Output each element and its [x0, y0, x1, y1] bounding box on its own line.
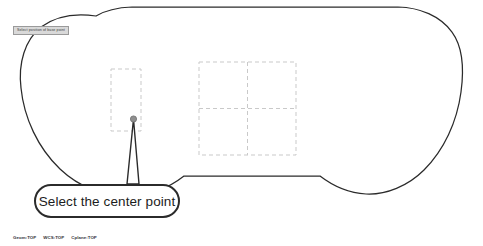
base-point-prompt-label: Select position of base point: [13, 26, 69, 35]
status-item-wcs[interactable]: WCS:TOP: [43, 235, 64, 240]
status-bar: Geom:TOP WCS:TOP Cplane:TOP: [0, 232, 483, 242]
callout-leader-pointer: [127, 119, 139, 184]
construction-grid-right: [199, 62, 296, 155]
status-item-cplane[interactable]: Cplane:TOP: [71, 235, 97, 240]
selection-point-marker[interactable]: [130, 116, 136, 122]
status-item-geometry-plane[interactable]: Geom:TOP: [13, 235, 36, 240]
rounded-slot-profile-outline[interactable]: [20, 7, 462, 196]
annotation-callout-text: Select the center point: [39, 194, 176, 209]
cad-application-window: Select position of base point Select the…: [0, 0, 483, 246]
construction-rect-left: [111, 69, 141, 131]
annotation-callout: Select the center point: [34, 184, 180, 218]
